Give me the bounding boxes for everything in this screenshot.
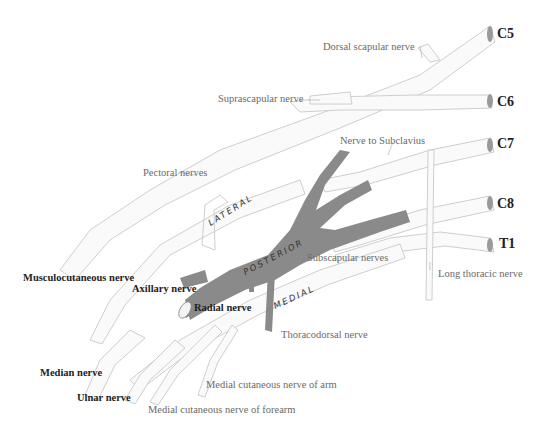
- root-label-c5: C5: [497, 26, 514, 42]
- label-median: Median nerve: [40, 368, 102, 379]
- label-axillary: Axillary nerve: [132, 284, 196, 295]
- label-nerve-to-subclavius: Nerve to Subclavius: [340, 136, 425, 147]
- label-medial-cutaneous-forearm: Medial cutaneous nerve of forearm: [148, 405, 296, 416]
- suprascapular-branch: [310, 92, 352, 104]
- root-label-t1: T1: [499, 236, 515, 252]
- label-subscapular: Subscapular nerves: [307, 253, 388, 264]
- label-long-thoracic: Long thoracic nerve: [438, 269, 523, 280]
- label-medial-cutaneous-arm: Medial cutaneous nerve of arm: [206, 380, 337, 391]
- label-thoracodorsal: Thoracodorsal nerve: [281, 330, 368, 341]
- label-radial: Radial nerve: [194, 303, 251, 314]
- label-ulnar: Ulnar nerve: [77, 393, 131, 404]
- subscapular-stub-2: [290, 252, 295, 266]
- long-thoracic-nerve: [426, 150, 434, 300]
- label-dorsal-scapular: Dorsal scapular nerve: [323, 42, 415, 53]
- root-label-c7: C7: [497, 136, 514, 152]
- label-pectoral: Pectoral nerves: [143, 168, 207, 179]
- label-suprascapular: Suprascapular nerve: [218, 94, 303, 105]
- label-musculocutaneous: Musculocutaneous nerve: [23, 273, 134, 284]
- root-label-c6: C6: [497, 94, 514, 110]
- root-label-c8: C8: [497, 196, 514, 212]
